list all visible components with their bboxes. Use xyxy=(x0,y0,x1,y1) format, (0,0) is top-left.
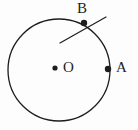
point-label-a: A xyxy=(116,60,127,75)
center-label-o: O xyxy=(63,60,74,75)
point-label-b: B xyxy=(77,1,87,16)
geometry-figure: B A O xyxy=(0,0,138,130)
main-circle xyxy=(8,19,110,121)
center-point-dot xyxy=(52,65,57,70)
point-b-dot xyxy=(81,20,87,26)
point-a-dot xyxy=(105,66,111,72)
